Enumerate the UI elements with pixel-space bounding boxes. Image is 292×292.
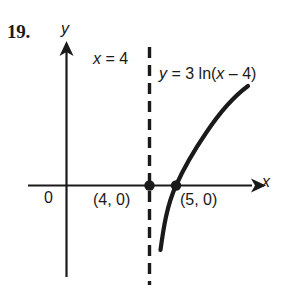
point-marker-5-0 — [171, 180, 181, 190]
origin-label: 0 — [44, 190, 53, 206]
asymptote-variable: x — [93, 50, 101, 67]
curve-equation-label: y = 3 ln(x – 4) — [159, 66, 256, 82]
point-label-4-0: (4, 0) — [93, 192, 130, 208]
point-marker-4-0 — [144, 180, 154, 190]
equation-lhs: y — [159, 65, 167, 82]
asymptote-value: = 4 — [101, 50, 128, 67]
x-axis-label: x — [262, 174, 270, 190]
point-label-5-0: (5, 0) — [180, 192, 217, 208]
log-function-graph-figure: 19. y x 0 x = 4 y = 3 ln(x – 4) (4, 0) (… — [0, 0, 292, 292]
y-axis-label: y — [61, 21, 69, 37]
log-curve — [161, 86, 249, 250]
asymptote-equation-label: x = 4 — [93, 51, 128, 67]
graph-canvas — [0, 0, 292, 292]
equation-rhs: – 4) — [224, 65, 256, 82]
equation-mid: = 3 ln( — [167, 65, 216, 82]
problem-number: 19. — [7, 22, 30, 41]
